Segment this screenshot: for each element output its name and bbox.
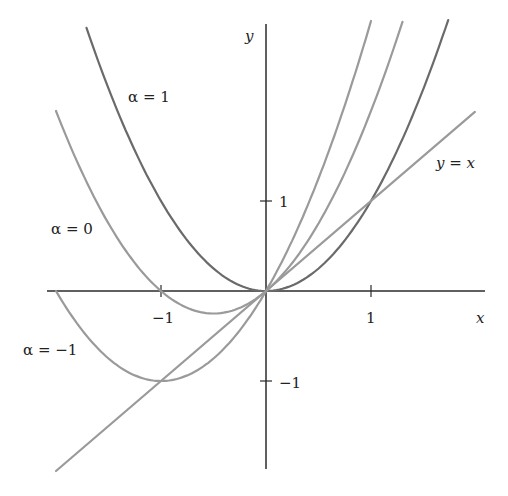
y-tick-label-neg1: −1 <box>279 374 301 392</box>
x-tick-label-1: 1 <box>366 309 376 327</box>
line-y-eq-x-label: y = x <box>435 154 476 172</box>
y-axis-label: y <box>244 27 254 45</box>
alpha-1-label: α = 1 <box>128 88 170 106</box>
y-tick-label-1: 1 <box>279 193 289 211</box>
alpha-0-label: α = 0 <box>51 220 93 238</box>
alpha-1-curve <box>87 20 449 291</box>
alpha-0-curve <box>56 22 403 314</box>
alpha-neg1-label: α = −1 <box>23 341 77 359</box>
x-axis-label: x <box>476 309 485 327</box>
x-tick-label-neg1: −1 <box>152 309 174 327</box>
diagram-canvas: α = 1 α = 0 α = −1 y = x y x −1 1 1 −1 <box>0 0 508 496</box>
